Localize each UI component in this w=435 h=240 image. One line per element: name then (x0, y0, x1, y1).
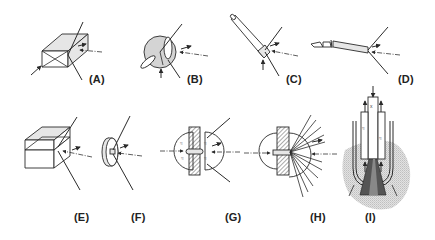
diffraction-geometries-figure: ≈ ≈ ≈ ≈ (0, 0, 435, 240)
figure-drawing: ≈ ≈ ≈ ≈ (0, 0, 435, 240)
svg-text:≈: ≈ (379, 135, 382, 141)
panel-label-b: (B) (187, 73, 203, 85)
panel-b-drawing (139, 24, 208, 78)
panel-label-h: (H) (310, 211, 326, 223)
panel-label-f: (F) (131, 211, 146, 223)
panel-label-i: (I) (365, 211, 376, 223)
svg-text:≈: ≈ (181, 155, 184, 161)
panel-i-drawing: x ≈ ≈ (342, 86, 410, 209)
panel-label-c: (C) (286, 73, 302, 85)
svg-text:≈: ≈ (204, 140, 207, 146)
panel-label-d: (D) (398, 73, 414, 85)
svg-text:≈: ≈ (362, 125, 365, 131)
panel-h-drawing (244, 115, 337, 197)
svg-text:≈: ≈ (204, 155, 207, 161)
panel-c-drawing (229, 13, 298, 76)
panel-label-e: (E) (74, 211, 89, 223)
panel-d-drawing (311, 27, 400, 74)
panel-g-drawing: ≈ ≈ ≈ ≈ (160, 118, 240, 182)
panel-e-drawing (25, 117, 92, 190)
panel-label-a: (A) (89, 73, 105, 85)
panel-a-drawing (31, 22, 102, 80)
panel-f-drawing (102, 116, 142, 190)
svg-text:≈: ≈ (180, 140, 183, 146)
panel-label-g: (G) (225, 211, 241, 223)
